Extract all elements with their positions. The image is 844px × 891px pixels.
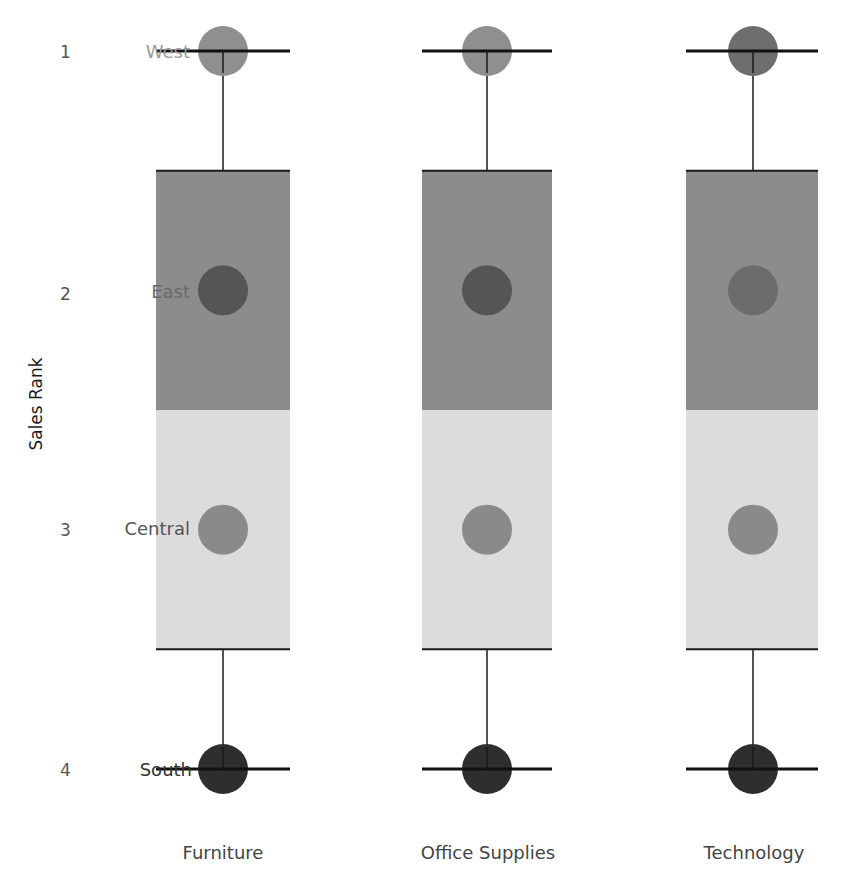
region-label-central: Central — [124, 519, 190, 539]
x-tick-office-supplies: Office Supplies — [421, 842, 555, 863]
dot-central-technology — [728, 505, 778, 555]
dot-east-furniture — [198, 265, 248, 315]
region-label-south: South — [140, 760, 192, 780]
dot-central-office-supplies — [462, 505, 512, 555]
region-label-west: West — [146, 42, 190, 62]
box-plot-chart: Sales Rank 1 2 3 4 West East Central Sou… — [0, 0, 844, 891]
plot-area — [0, 0, 844, 891]
region-label-east: East — [151, 282, 190, 302]
dot-east-office-supplies — [462, 265, 512, 315]
dot-east-technology — [728, 265, 778, 315]
dot-central-furniture — [198, 505, 248, 555]
x-tick-technology: Technology — [704, 842, 805, 863]
x-tick-furniture: Furniture — [183, 842, 264, 863]
